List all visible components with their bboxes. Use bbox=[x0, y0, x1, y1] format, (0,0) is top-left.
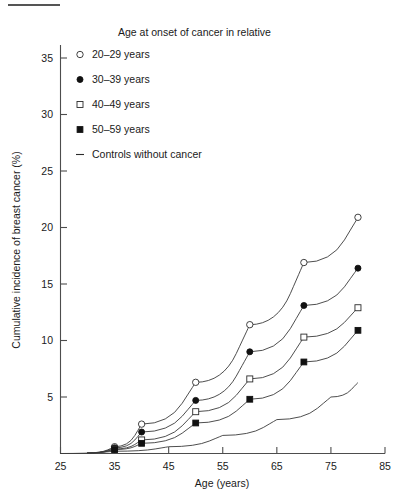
series-line-2 bbox=[88, 308, 358, 453]
y-tick-label: 10 bbox=[41, 334, 53, 346]
data-point-open-square bbox=[355, 305, 361, 311]
legend-group: 20–29 years30–39 years40–49 years50–59 y… bbox=[76, 48, 202, 160]
x-tick-label: 85 bbox=[379, 460, 391, 472]
x-tick-label: 55 bbox=[217, 460, 229, 472]
top-rule-decoration bbox=[8, 4, 60, 6]
x-tick-label: 65 bbox=[271, 460, 283, 472]
legend-label: 20–29 years bbox=[92, 48, 150, 60]
data-point-filled-circle bbox=[247, 349, 253, 355]
data-point-filled-square bbox=[193, 420, 199, 426]
series-line-0 bbox=[88, 217, 358, 453]
y-axis-title: Cumulative incidence of breast cancer (%… bbox=[10, 151, 22, 348]
data-point-filled-square bbox=[112, 447, 118, 453]
legend-marker-open-circle bbox=[77, 51, 83, 57]
legend-marker-filled-circle bbox=[77, 77, 83, 83]
x-tick-label: 75 bbox=[325, 460, 337, 472]
chart-figure: 5101520253035 25354555657585 Age (years)… bbox=[0, 0, 408, 503]
legend-label: 40–49 years bbox=[92, 98, 150, 110]
data-point-open-circle bbox=[355, 214, 361, 220]
data-point-filled-square bbox=[301, 359, 307, 365]
chart-canvas: 5101520253035 25354555657585 Age (years)… bbox=[0, 0, 408, 503]
y-tick-label: 35 bbox=[41, 52, 53, 64]
data-point-open-square bbox=[247, 376, 253, 382]
data-point-filled-circle bbox=[139, 429, 145, 435]
legend-label: 50–59 years bbox=[92, 123, 150, 135]
y-tick-label: 30 bbox=[41, 108, 53, 120]
series-lines-group bbox=[61, 217, 358, 453]
data-point-open-circle bbox=[138, 421, 144, 427]
y-tick-label: 5 bbox=[47, 391, 53, 403]
data-point-filled-circle bbox=[301, 302, 307, 308]
y-tick-label: 20 bbox=[41, 221, 53, 233]
x-axis-title: Age (years) bbox=[195, 477, 249, 489]
data-point-filled-square bbox=[247, 396, 253, 402]
y-axis-ticks bbox=[61, 58, 68, 397]
data-point-open-circle bbox=[247, 321, 253, 327]
series-markers-group bbox=[111, 214, 361, 452]
data-point-filled-square bbox=[355, 327, 361, 333]
legend-marker-open-square bbox=[77, 102, 83, 108]
y-axis-tick-labels: 5101520253035 bbox=[41, 52, 53, 403]
x-tick-label: 35 bbox=[109, 460, 121, 472]
data-point-open-circle bbox=[193, 379, 199, 385]
legend-label: Controls without cancer bbox=[92, 148, 202, 160]
legend-marker-filled-square bbox=[77, 127, 83, 133]
y-tick-label: 25 bbox=[41, 165, 53, 177]
data-point-filled-circle bbox=[193, 397, 199, 403]
x-tick-label: 25 bbox=[55, 460, 67, 472]
legend-label: 30–39 years bbox=[92, 73, 150, 85]
x-axis-tick-labels: 25354555657585 bbox=[55, 460, 391, 472]
data-point-open-square bbox=[301, 334, 307, 340]
x-tick-label: 45 bbox=[163, 460, 175, 472]
data-point-filled-circle bbox=[355, 265, 361, 271]
y-tick-label: 15 bbox=[41, 278, 53, 290]
data-point-filled-square bbox=[139, 440, 145, 446]
legend-title: Age at onset of cancer in relative bbox=[118, 26, 271, 38]
data-point-open-square bbox=[193, 409, 199, 415]
data-point-open-circle bbox=[301, 259, 307, 265]
series-line-4 bbox=[61, 382, 358, 453]
